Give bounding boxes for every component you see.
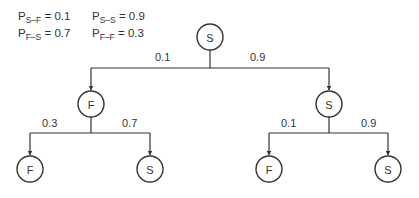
node-label: S (146, 164, 153, 176)
node-left-left: F (17, 156, 43, 182)
node-root: S (197, 24, 223, 50)
node-level1-left: F (78, 91, 104, 117)
node-level1-right: S (316, 91, 342, 117)
edge-prob-left-right: 0.7 (122, 117, 137, 129)
node-label: F (27, 164, 34, 176)
edge-prob-right-right: 0.9 (361, 117, 376, 129)
edge-prob-left-left: 0.3 (42, 117, 57, 129)
edge-prob-right-left: 0.1 (281, 117, 296, 129)
node-left-right: S (137, 156, 163, 182)
root-branches (91, 50, 329, 90)
probability-tree-diagram: 0.1 0.9 0.3 0.7 0.1 0.9 S F S F S F S (0, 0, 419, 198)
node-label: S (206, 32, 213, 44)
node-right-left: F (256, 156, 282, 182)
edge-prob-root-left: 0.1 (155, 51, 170, 63)
node-right-right: S (375, 156, 401, 182)
node-label: S (325, 99, 332, 111)
node-label: S (384, 164, 391, 176)
edge-prob-root-right: 0.9 (250, 51, 265, 63)
node-label: F (266, 164, 273, 176)
node-label: F (88, 99, 95, 111)
